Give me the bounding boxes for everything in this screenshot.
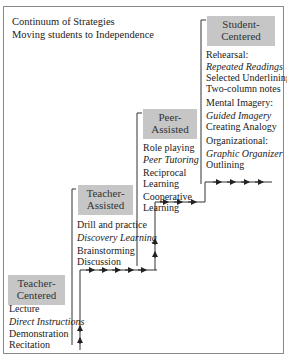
item-organizational: Organizational: — [206, 135, 268, 146]
level-label-line2: Assisted — [143, 123, 197, 135]
item-brainstorming: Brainstorming — [77, 245, 135, 256]
level-label-line2: Assisted — [78, 199, 133, 211]
item-rehearsal: Rehearsal: — [206, 49, 248, 60]
item-selected-underlining: Selected Underlining — [206, 72, 287, 83]
item-cooperative: Cooperative — [143, 191, 192, 202]
item-demonstration: Demonstration — [9, 328, 68, 339]
item-reciprocal: Reciprocal — [143, 167, 186, 178]
item-creating-analogy: Creating Analogy — [206, 121, 277, 132]
item-repeated-readings: Repeated Readings — [206, 61, 283, 72]
level-box-teacher-assisted: Teacher- Assisted — [78, 185, 133, 215]
item-lecture: Lecture — [9, 303, 40, 314]
item-guided-imagery: Guided Imagery — [206, 110, 271, 121]
item-outlining: Outlining — [206, 159, 244, 170]
item-graphic-organizer: Graphic Organizer — [206, 148, 283, 159]
level-label-line2: Centered — [207, 30, 275, 42]
item-discovery-learning: Discovery Learning — [77, 232, 157, 243]
level-box-peer-assisted: Peer- Assisted — [143, 109, 197, 139]
item-drill-and-practice: Drill and practice — [77, 219, 147, 230]
level-label-line1: Peer- — [143, 111, 197, 123]
item-role-playing: Role playing — [143, 142, 194, 153]
level-box-teacher-centered: Teacher- Centered — [8, 275, 65, 305]
level-label-line1: Student- — [207, 18, 275, 30]
item-discussion: Discussion — [77, 256, 121, 267]
item-direct-instructions: Direct Instructions — [9, 316, 84, 327]
level-label-line2: Centered — [8, 289, 65, 301]
item-two-column-notes: Two-column notes — [206, 83, 281, 94]
item-cooperative-learning: Learning — [143, 202, 179, 213]
item-reciprocal-learning: Learning — [143, 178, 179, 189]
item-mental-imagery: Mental Imagery: — [206, 97, 273, 108]
level-label-line1: Teacher- — [8, 277, 65, 289]
item-recitation: Recitation — [9, 339, 50, 350]
level-box-student-centered: Student- Centered — [207, 16, 275, 46]
level-label-line1: Teacher- — [78, 187, 133, 199]
item-peer-tutoring: Peer Tutoring — [143, 154, 199, 165]
